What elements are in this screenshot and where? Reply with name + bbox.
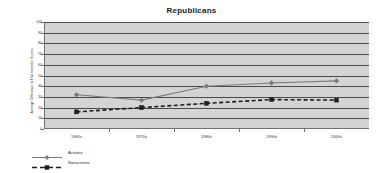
legend-item-activists[interactable]: Activists bbox=[30, 148, 150, 157]
legend-swatch-square-icon bbox=[30, 158, 64, 167]
x-tick-label: 1990s bbox=[252, 134, 292, 139]
data-point-marker bbox=[204, 84, 209, 89]
data-point-marker bbox=[205, 101, 209, 105]
data-point-marker bbox=[74, 92, 79, 97]
legend-label: Nonactivists bbox=[68, 159, 90, 166]
x-tick-label: 1960s bbox=[57, 134, 97, 139]
y-tick-label: 80 bbox=[26, 41, 42, 45]
y-tick-mark bbox=[41, 129, 44, 130]
y-tick-label: 100 bbox=[26, 20, 42, 24]
x-tick-mark bbox=[174, 129, 175, 132]
y-tick-label: 20 bbox=[26, 106, 42, 110]
chart-legend: ActivistsNonactivists bbox=[30, 148, 150, 170]
y-tick-label: 70 bbox=[26, 52, 42, 56]
x-tick-label: 1970s bbox=[122, 134, 162, 139]
data-point-marker bbox=[140, 106, 144, 110]
x-tick-mark bbox=[304, 129, 305, 132]
x-tick-label: 1980s bbox=[187, 134, 227, 139]
y-tick-label: 0 bbox=[26, 127, 42, 131]
y-tick-label: 10 bbox=[26, 116, 42, 120]
legend-swatch-diamond-icon bbox=[30, 148, 64, 157]
y-tick-label: 30 bbox=[26, 95, 42, 99]
y-tick-label: 40 bbox=[26, 84, 42, 88]
chart-series-layer bbox=[44, 22, 369, 129]
y-tick-label: 50 bbox=[26, 74, 42, 78]
data-point-marker bbox=[269, 81, 274, 86]
legend-label: Activists bbox=[68, 149, 83, 156]
legend-item-nonactivists[interactable]: Nonactivists bbox=[30, 158, 150, 167]
x-tick-label: 2000s bbox=[317, 134, 357, 139]
data-point-marker bbox=[139, 98, 144, 103]
y-tick-label: 90 bbox=[26, 31, 42, 35]
data-point-marker bbox=[270, 98, 274, 102]
data-point-marker bbox=[335, 98, 339, 102]
x-tick-mark bbox=[109, 129, 110, 132]
data-point-marker bbox=[334, 78, 339, 83]
data-point-marker bbox=[75, 110, 79, 114]
chart-container: Republicans Average Difference in Thermo… bbox=[0, 0, 383, 173]
x-tick-mark bbox=[239, 129, 240, 132]
y-tick-label: 60 bbox=[26, 63, 42, 67]
